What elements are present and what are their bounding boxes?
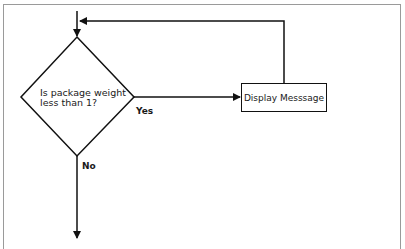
yes-label: Yes	[136, 106, 153, 116]
decision-label-line2: less than 1?	[40, 98, 126, 108]
process-label: Display Messsage	[244, 93, 324, 103]
decision-label: Is package weight less than 1?	[40, 88, 126, 108]
process-box-display-message: Display Messsage	[241, 83, 327, 112]
no-label: No	[82, 161, 96, 171]
